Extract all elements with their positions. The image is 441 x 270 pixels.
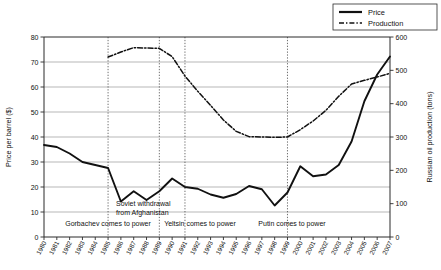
x-tick-label: 1980 [35, 239, 48, 255]
x-tick-label: 1992 [188, 239, 201, 255]
right-tick-label: 300 [396, 134, 408, 141]
x-tick-label: 2004 [342, 239, 355, 255]
left-axis-tick-labels: 01020304050607080 [31, 34, 39, 241]
chart-container: 01020304050607080 0100200300400500600 19… [0, 0, 441, 270]
x-axis-tick-labels: 1980198119821983198419851986198719881989… [35, 239, 394, 255]
x-tick-label: 1994 [214, 239, 227, 255]
legend-label-production: Production [368, 19, 403, 28]
annotation-soviet-withdrawal-line1: Soviet withdrawal [116, 200, 171, 207]
left-tick-label: 80 [31, 34, 39, 41]
x-tick-label: 1983 [73, 239, 86, 255]
annotation-1991: Yeltsin comes to power [164, 220, 236, 228]
right-tick-label: 0 [396, 234, 400, 241]
annotation-1985: Gorbachev comes to power [65, 220, 151, 228]
x-tick-label: 1985 [99, 239, 112, 255]
right-tick-label: 500 [396, 67, 408, 74]
x-tick-label: 1997 [253, 239, 266, 255]
x-tick-label: 1993 [201, 239, 214, 255]
x-tick-label: 1999 [278, 239, 291, 255]
x-tick-label: 2002 [317, 239, 330, 255]
left-tick-label: 30 [31, 159, 39, 166]
right-tick-label: 600 [396, 34, 408, 41]
x-tick-label: 1998 [265, 239, 278, 255]
x-tick-label: 2006 [368, 239, 381, 255]
right-axis-title: Russian oil production (tons) [425, 91, 434, 182]
right-axis-tickmarks [390, 37, 394, 237]
left-tick-label: 40 [31, 134, 39, 141]
annotation-soviet-withdrawal-line2: from Afghanistan [116, 209, 169, 217]
x-tick-label: 1996 [240, 239, 253, 255]
x-tick-label: 1989 [150, 239, 163, 255]
left-tick-label: 20 [31, 184, 39, 191]
legend-label-price: Price [368, 8, 385, 17]
x-tick-label: 2005 [355, 239, 368, 255]
x-tick-label: 2007 [381, 239, 394, 255]
x-tick-label: 1981 [48, 239, 61, 255]
x-tick-label: 1982 [60, 239, 73, 255]
x-tick-label: 1990 [163, 239, 176, 255]
oil-price-production-chart: 01020304050607080 0100200300400500600 19… [0, 0, 441, 270]
x-tick-label: 1991 [176, 239, 189, 255]
x-tick-label: 1995 [227, 239, 240, 255]
right-tick-label: 100 [396, 200, 408, 207]
left-axis-title: Price per barrel ($) [4, 107, 13, 167]
annotation-1999: Putin comes to power [258, 220, 326, 228]
x-tick-label: 2001 [304, 239, 317, 255]
x-tick-label: 1986 [112, 239, 125, 255]
left-tick-label: 10 [31, 209, 39, 216]
x-tick-label: 1987 [124, 239, 137, 255]
left-tick-label: 0 [35, 234, 39, 241]
right-axis-tick-labels: 0100200300400500600 [396, 34, 408, 241]
right-tick-label: 200 [396, 167, 408, 174]
x-tick-label: 2000 [291, 239, 304, 255]
x-tick-label: 1988 [137, 239, 150, 255]
chart-legend: Price Production [333, 4, 437, 30]
x-tick-label: 2003 [329, 239, 342, 255]
right-tick-label: 400 [396, 100, 408, 107]
left-tick-label: 50 [31, 109, 39, 116]
left-tick-label: 60 [31, 84, 39, 91]
left-axis-tickmarks [41, 37, 45, 237]
x-tick-label: 1984 [86, 239, 99, 255]
left-tick-label: 70 [31, 59, 39, 66]
